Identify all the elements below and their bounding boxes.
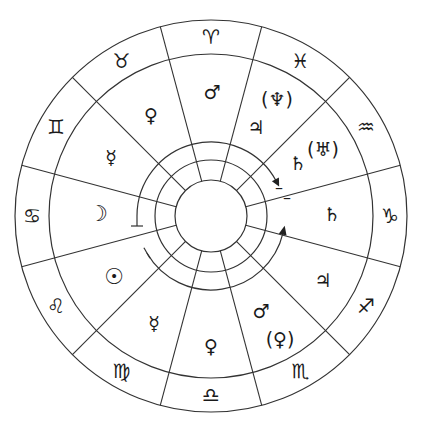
sign-aquarius-icon: ♒︎ [357,117,375,137]
sign-leo-icon: ♌︎ [47,296,65,316]
planet-pluto-icon: (♀) [266,330,295,349]
planet-mercury-icon: ☿ [148,314,160,333]
sign-gemini-icon: ♊︎ [47,117,65,137]
sector-divider [22,225,177,266]
planet-mercury-icon: ☿ [105,148,117,167]
planet-saturn-icon: ♄ [289,154,306,173]
planet-uranus-icon: (♅) [307,140,339,159]
sector-divider [220,251,261,406]
planet-sun-icon: ☉ [104,266,124,288]
sign-capricorn-icon: ♑︎ [381,206,399,226]
sign-libra-icon: ♎︎ [202,385,220,405]
lower-arc-tee [144,248,150,258]
sector-divider [220,27,261,182]
inner-ring [175,180,247,252]
sign-virgo-icon: ♍︎ [113,361,131,381]
sector-divider [246,225,401,266]
planet-jupiter-icon: ♃ [314,271,331,290]
sector-divider [72,77,185,190]
upper-arrow-bar: – [275,180,283,196]
sign-aries-icon: ♈︎ [202,27,220,47]
sign-taurus-icon: ♉︎ [113,51,131,71]
sign-scorpio-icon: ♏︎ [292,361,310,381]
planet-venus-icon: ♀ [144,106,158,125]
transit-arcs [131,142,287,290]
sector-divider [72,241,185,354]
planet-mars-icon: ♂ [252,302,269,321]
lower-arc [147,233,283,290]
planet-jupiter-icon: ♃ [247,118,264,137]
sector-divider [160,27,201,182]
sector-divider [246,165,401,206]
sign-sagittarius-icon: ♐︎ [357,296,375,316]
planet-neptune-icon: (♆) [261,90,293,109]
upper-arc [137,142,276,216]
planet-moon-icon: ☽ [88,203,108,225]
planet-venus-icon: ♀ [204,337,218,356]
sign-cancer-icon: ♋︎ [23,206,41,226]
sector-divider [160,251,201,406]
astrology-wheel [0,0,424,432]
planet-mars-icon: ♂ [203,83,220,102]
sign-pisces-icon: ♓︎ [292,51,310,71]
lower-arrow-bar: – [283,190,291,206]
planet-saturn-icon: ♄ [323,205,340,224]
